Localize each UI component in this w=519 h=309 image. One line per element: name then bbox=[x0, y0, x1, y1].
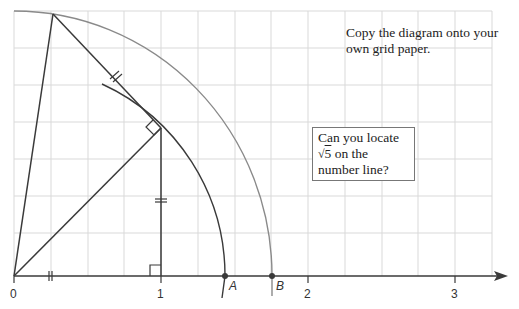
question-line-2: √5 on the bbox=[318, 146, 410, 162]
perpendicular-segment bbox=[53, 14, 161, 128]
sqrt-symbol: √ bbox=[318, 147, 325, 161]
question-line-1: Can you locate bbox=[318, 130, 410, 146]
right-angle-marker bbox=[150, 265, 161, 276]
question-line-2-rest: on the bbox=[331, 146, 368, 161]
point-a bbox=[222, 273, 228, 279]
tick-label-1: 1 bbox=[157, 287, 164, 301]
copy-instruction-note: Copy the diagram onto your own grid pape… bbox=[346, 25, 516, 57]
tick-label-0: 0 bbox=[10, 287, 17, 301]
hypotenuse-sqrt3 bbox=[14, 14, 53, 276]
inner-arc bbox=[102, 84, 225, 298]
label-b: B bbox=[276, 279, 284, 293]
tick-label-2: 2 bbox=[304, 287, 311, 301]
question-line-3: number line? bbox=[318, 162, 410, 178]
tick-label-3: 3 bbox=[451, 287, 458, 301]
outer-arc bbox=[14, 11, 272, 296]
question-box: Can you locate √5 on the number line? bbox=[312, 127, 415, 181]
point-b bbox=[269, 273, 275, 279]
label-a: A bbox=[228, 279, 237, 293]
